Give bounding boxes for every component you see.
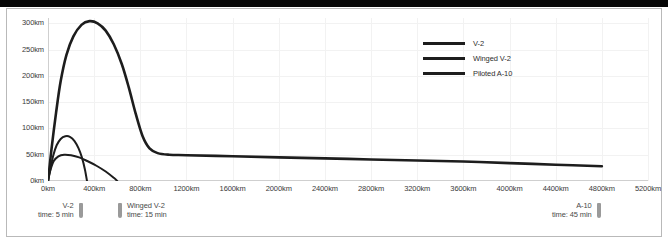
y-axis-tick-labels: 0km50km100km150km200km250km300km	[8, 18, 44, 181]
legend-label-v2: V-2	[473, 39, 484, 48]
y-axis-tick-label: 100km	[22, 123, 44, 132]
x-axis-tick-label: 4400km	[543, 184, 569, 193]
y-axis-tick-label: 150km	[22, 97, 44, 106]
annotation-a10-marker	[597, 203, 601, 218]
annotation-v2-marker	[79, 203, 83, 218]
annotation-v2-time: time: 5 min	[38, 210, 74, 220]
legend-label-piloted-a10: Piloted A-10	[473, 69, 512, 78]
x-axis-tick-label: 4800km	[589, 184, 615, 193]
chart-figure: 0km50km100km150km200km250km300km 0km400k…	[0, 0, 668, 241]
x-axis-tick-label: 2800km	[358, 184, 384, 193]
x-axis-tick-label: 4000km	[496, 184, 522, 193]
gridline	[648, 18, 649, 181]
x-axis-tick-label: 3200km	[404, 184, 430, 193]
y-axis-tick-label: 250km	[22, 45, 44, 54]
annotation-winged-v2: Winged V-2 time: 15 min	[118, 199, 167, 221]
x-axis-tick-label: 5200km	[635, 184, 661, 193]
annotation-winged-v2-text: Winged V-2 time: 15 min	[127, 201, 167, 220]
annotation-a10-time: time: 45 min	[552, 210, 592, 220]
annotation-winged-v2-name: Winged V-2	[127, 201, 167, 211]
top-black-bar	[0, 0, 668, 7]
annotation-v2-text: V-2 time: 5 min	[38, 201, 74, 220]
legend-item-winged-v2: Winged V-2	[423, 51, 583, 66]
x-axis-tick-labels: 0km400km800km1200km1600km2000km2400km280…	[48, 184, 648, 196]
y-axis-tick-label: 50km	[26, 150, 44, 159]
annotation-v2: V-2 time: 5 min	[38, 199, 83, 221]
legend-swatch-piloted-a10	[423, 72, 465, 75]
x-axis-tick-label: 2400km	[312, 184, 338, 193]
legend-item-v2: V-2	[423, 36, 583, 51]
x-axis-tick-label: 800km	[129, 184, 151, 193]
legend-item-piloted-a10: Piloted A-10	[423, 66, 583, 81]
curve-winged-v2	[48, 155, 117, 181]
annotation-winged-v2-marker	[118, 203, 122, 218]
legend-swatch-v2	[423, 42, 465, 45]
legend-swatch-winged-v2	[423, 57, 465, 60]
annotation-a10-text: A-10 time: 45 min	[552, 201, 592, 220]
legend-label-winged-v2: Winged V-2	[473, 54, 511, 63]
x-axis-tick-label: 1600km	[220, 184, 246, 193]
x-axis-tick-label: 0km	[41, 184, 55, 193]
annotation-a10-name: A-10	[552, 201, 592, 211]
x-axis-tick-label: 2000km	[266, 184, 292, 193]
y-axis-tick-label: 300km	[22, 18, 44, 27]
y-axis-tick-label: 200km	[22, 71, 44, 80]
chart-legend: V-2 Winged V-2 Piloted A-10	[423, 36, 583, 81]
annotation-winged-v2-time: time: 15 min	[127, 210, 167, 220]
x-axis-tick-label: 400km	[83, 184, 105, 193]
annotation-v2-name: V-2	[38, 201, 74, 211]
x-axis-tick-label: 1200km	[173, 184, 199, 193]
annotation-a10: A-10 time: 45 min	[552, 199, 601, 221]
x-axis-tick-label: 3600km	[450, 184, 476, 193]
